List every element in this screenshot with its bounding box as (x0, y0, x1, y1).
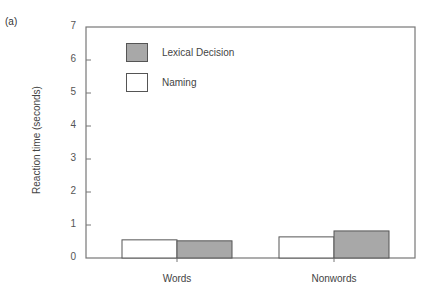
bar-naming-words (122, 240, 177, 258)
bar-naming-nonwords (279, 237, 334, 258)
legend-label-naming: Naming (162, 77, 196, 88)
legend-swatch-naming (126, 73, 148, 92)
bar-lexical-decision-words (177, 241, 232, 258)
bar-lexical-decision-nonwords (334, 231, 389, 258)
bar-chart-plot (0, 0, 427, 301)
legend-swatch-lexical-decision (126, 43, 148, 62)
legend-label-lexical-decision: Lexical Decision (162, 47, 234, 58)
